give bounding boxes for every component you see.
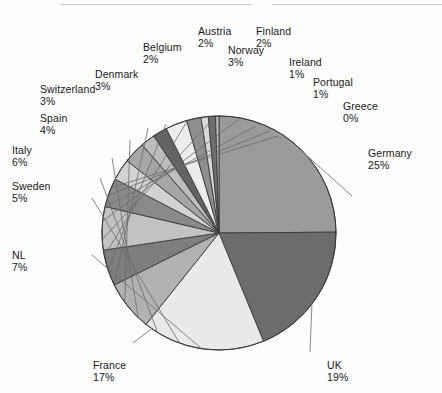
slice-label-name: Denmark	[95, 69, 138, 81]
slice-label-nl: NL7%	[12, 250, 27, 273]
slice-label-france: France17%	[93, 360, 126, 383]
slice-label-italy: Italy6%	[12, 145, 32, 168]
leader-line-france	[133, 328, 152, 343]
slice-label-greece: Greece0%	[343, 101, 378, 124]
slice-label-belgium: Belgium2%	[143, 42, 182, 65]
leader-line-uk	[310, 303, 312, 352]
pie-chart	[0, 0, 442, 393]
slice-label-percent: 6%	[12, 157, 32, 169]
slice-label-percent: 3%	[95, 81, 138, 93]
slice-label-percent: 17%	[93, 372, 126, 384]
slice-label-name: Portugal	[313, 77, 353, 89]
slice-label-percent: 25%	[368, 160, 412, 172]
slice-label-name: France	[93, 360, 126, 372]
slice-label-percent: 5%	[12, 193, 51, 205]
slice-label-spain: Spain4%	[40, 113, 67, 136]
slice-label-percent: 3%	[40, 96, 95, 108]
slice-label-name: Spain	[40, 113, 67, 125]
slice-label-name: NL	[12, 250, 27, 262]
slice-label-name: Belgium	[143, 42, 182, 54]
slice-label-percent: 2%	[143, 54, 182, 66]
slice-label-name: UK	[327, 360, 348, 372]
slice-label-percent: 0%	[343, 113, 378, 125]
slice-label-sweden: Sweden5%	[12, 181, 51, 204]
slice-label-uk: UK19%	[327, 360, 348, 383]
slice-label-percent: 7%	[12, 262, 27, 274]
slice-label-name: Greece	[343, 101, 378, 113]
slice-label-name: Finland	[256, 26, 291, 38]
pie-slice-germany[interactable]	[219, 116, 336, 233]
slice-label-name: Sweden	[12, 181, 51, 193]
slice-label-percent: 2%	[198, 38, 231, 50]
slice-label-percent: 3%	[228, 57, 264, 69]
slice-label-name: Germany	[368, 148, 412, 160]
slice-label-switzerland: Switzerland3%	[40, 84, 95, 107]
slice-label-name: Italy	[12, 145, 32, 157]
slice-label-name: Switzerland	[40, 84, 95, 96]
chart-figure: Germany25%UK19%France17%NL7%Sweden5%Ital…	[0, 0, 442, 393]
slice-label-percent: 1%	[313, 89, 353, 101]
slice-label-name: Austria	[198, 26, 231, 38]
slice-label-percent: 2%	[256, 38, 291, 50]
slice-label-finland: Finland2%	[256, 26, 291, 49]
slice-label-germany: Germany25%	[368, 148, 412, 171]
slice-label-name: Ireland	[289, 57, 322, 69]
slice-label-austria: Austria2%	[198, 26, 231, 49]
slice-label-portugal: Portugal1%	[313, 77, 353, 100]
slice-label-denmark: Denmark3%	[95, 69, 138, 92]
slice-label-percent: 4%	[40, 125, 67, 137]
slice-label-percent: 19%	[327, 372, 348, 384]
